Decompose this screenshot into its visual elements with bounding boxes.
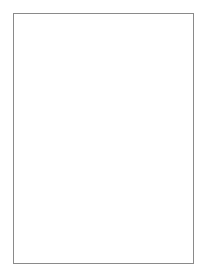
membrane-diagram — [0, 0, 207, 278]
